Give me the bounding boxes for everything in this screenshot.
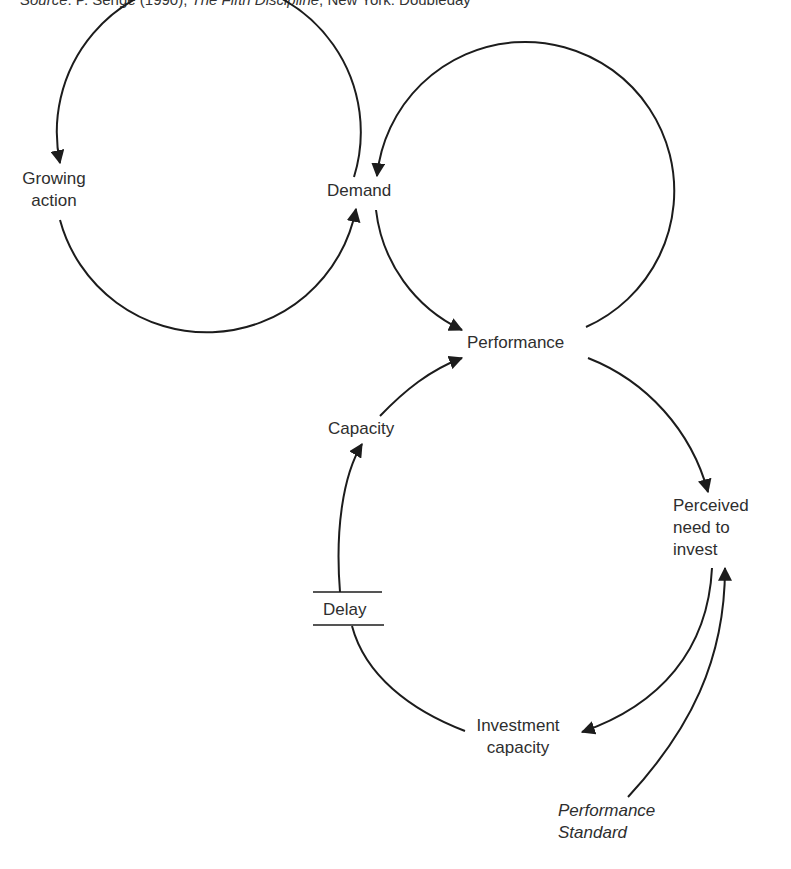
- arrow-demand-to-growing-action: [57, 0, 361, 177]
- arrow-delay-to-capacity: [339, 444, 362, 592]
- perceived-need-line2: need to: [673, 517, 749, 539]
- node-performance-standard: Performance Standard: [558, 800, 655, 844]
- arrow-capacity-to-performance: [380, 358, 462, 416]
- performance-standard-line1: Performance: [558, 800, 655, 822]
- node-demand: Demand: [327, 180, 391, 202]
- node-growing-action: Growing action: [14, 168, 94, 212]
- growing-action-line1: Growing: [14, 168, 94, 190]
- arrow-demand-to-performance: [376, 210, 462, 330]
- investment-capacity-line2: capacity: [468, 737, 568, 759]
- node-capacity: Capacity: [328, 418, 394, 440]
- node-investment-capacity: Investment capacity: [468, 715, 568, 759]
- node-perceived-need-to-invest: Perceived need to invest: [673, 495, 749, 561]
- arrow-performance-standard-to-perceived-need: [628, 568, 725, 797]
- node-delay: Delay: [323, 599, 366, 621]
- node-performance: Performance: [467, 332, 564, 354]
- line-investment-capacity-to-delay: [352, 626, 465, 731]
- perceived-need-line1: Perceived: [673, 495, 749, 517]
- growing-action-line2: action: [14, 190, 94, 212]
- arrow-growing-action-to-demand: [60, 209, 356, 332]
- arrow-performance-to-perceived-need: [588, 358, 708, 492]
- perceived-need-line3: invest: [673, 539, 749, 561]
- performance-standard-line2: Standard: [558, 822, 655, 844]
- arrow-performance-to-demand: [377, 42, 674, 327]
- causal-loop-diagram: [0, 0, 791, 869]
- investment-capacity-line1: Investment: [468, 715, 568, 737]
